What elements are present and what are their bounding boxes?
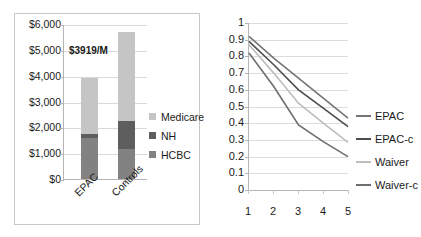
legend-swatch-icon [149, 151, 156, 158]
bar-segment-nh [118, 121, 135, 149]
bar-y-tick-mark [60, 25, 64, 26]
legend-line-icon [356, 161, 371, 163]
line-series-waiver [249, 45, 348, 143]
line-x-tick-label: 4 [316, 205, 330, 217]
legend-swatch-icon [149, 132, 156, 139]
bar-y-tick-mark [60, 51, 64, 52]
bar-legend-label: Medicare [161, 111, 204, 123]
bar-legend-label: NH [161, 130, 176, 142]
line-x-tick-label: 3 [291, 205, 305, 217]
line-y-tick-label: 0.5 [229, 101, 244, 112]
bar-legend-item-medicare[interactable]: Medicare [149, 107, 201, 126]
legend-swatch-icon [149, 113, 156, 120]
bar-legend-item-hcbc[interactable]: HCBC [149, 145, 201, 164]
bar-y-tick-mark [60, 180, 64, 181]
line-legend-item-epac[interactable]: EPAC [356, 104, 418, 127]
bar-legend-item-nh[interactable]: NH [149, 126, 201, 145]
bar-legend: MedicareNHHCBC [149, 107, 201, 164]
line-x-tick-mark [298, 190, 299, 194]
line-x-tick-mark [323, 190, 324, 194]
line-y-tick-label: 0.1 [229, 167, 244, 178]
line-y-tick-label: 0.9 [229, 34, 244, 45]
bar-y-tick-label: $0 [49, 174, 61, 184]
bar-segment-medicare [118, 32, 135, 121]
line-y-tick-label: 0.3 [229, 134, 244, 145]
line-y-tick-label: 0.6 [229, 84, 244, 95]
legend-line-icon [356, 115, 371, 117]
bar-y-tick-mark [60, 103, 64, 104]
bar-y-tick-label: $1,000 [29, 148, 61, 158]
bar-y-tick-label: $6,000 [29, 19, 61, 29]
line-legend-label: EPAC-c [375, 133, 413, 145]
bar-y-tick-mark [60, 77, 64, 78]
line-legend-item-waiver-c[interactable]: Waiver-c [356, 173, 418, 196]
line-legend-item-epac-c[interactable]: EPAC-c [356, 127, 418, 150]
line-legend-label: Waiver [375, 156, 409, 168]
line-series-svg [249, 23, 348, 190]
bar-y-tick-label: $5,000 [29, 45, 61, 55]
line-y-tick-label: 0.2 [229, 151, 244, 162]
line-y-tick-label: 0.4 [229, 117, 244, 128]
bar-y-tick-label: $2,000 [29, 122, 61, 132]
line-x-tick-label: 2 [266, 205, 280, 217]
bar-legend-label: HCBC [161, 149, 191, 161]
bar-segment-medicare [81, 78, 98, 134]
bar-chart-panel: $0$1,000$2,000$3,000$4,000$5,000$6,000 E… [14, 13, 200, 225]
line-legend-label: Waiver-c [375, 179, 418, 191]
bar-column[interactable] [118, 24, 135, 179]
bar-y-tick-mark [60, 154, 64, 155]
line-y-tick-label: 0.8 [229, 50, 244, 61]
line-x-tick-label: 5 [341, 205, 355, 217]
line-x-tick-label: 1 [241, 205, 255, 217]
bar-y-tick-mark [60, 128, 64, 129]
legend-line-icon [356, 184, 371, 186]
line-legend: EPACEPAC-cWaiverWaiver-c [356, 104, 418, 196]
line-legend-label: EPAC [375, 110, 404, 122]
bar-segment-nh [81, 134, 98, 138]
bar-y-tick-label: $3,000 [29, 97, 61, 107]
line-x-tick-mark [273, 190, 274, 194]
line-series-waiver-c [249, 53, 348, 157]
bar-y-tick-label: $4,000 [29, 71, 61, 81]
line-plot-area [248, 23, 348, 190]
line-series-epac [249, 36, 348, 118]
bar-y-axis-labels: $0$1,000$2,000$3,000$4,000$5,000$6,000 [17, 20, 61, 180]
line-y-tick-label: 1 [238, 17, 244, 28]
line-chart-panel: 00.10.20.30.40.50.60.70.80.91 12345 EPAC… [218, 8, 418, 230]
line-y-tick-label: 0 [238, 184, 244, 195]
line-legend-item-waiver[interactable]: Waiver [356, 150, 418, 173]
line-y-tick-label: 0.7 [229, 67, 244, 78]
bar-annotation-label: $3919/M [69, 45, 108, 56]
figure-container: $0$1,000$2,000$3,000$4,000$5,000$6,000 E… [0, 0, 421, 237]
legend-line-icon [356, 138, 371, 140]
line-series-epac-c [249, 41, 348, 126]
line-x-tick-mark [248, 190, 249, 194]
line-y-axis-labels: 00.10.20.30.40.50.60.70.80.91 [218, 18, 244, 190]
line-x-axis [248, 190, 348, 191]
line-x-tick-mark [348, 190, 349, 194]
